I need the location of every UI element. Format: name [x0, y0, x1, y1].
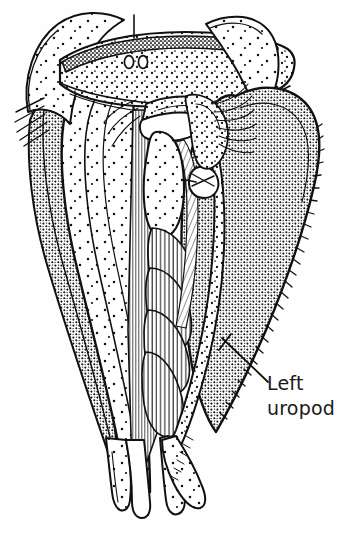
figure-canvas: Left uropod	[0, 0, 348, 534]
callout-label-line1: Left	[267, 372, 304, 394]
callout-label-line2: uropod	[267, 397, 335, 419]
anatomical-drawing	[0, 0, 348, 534]
